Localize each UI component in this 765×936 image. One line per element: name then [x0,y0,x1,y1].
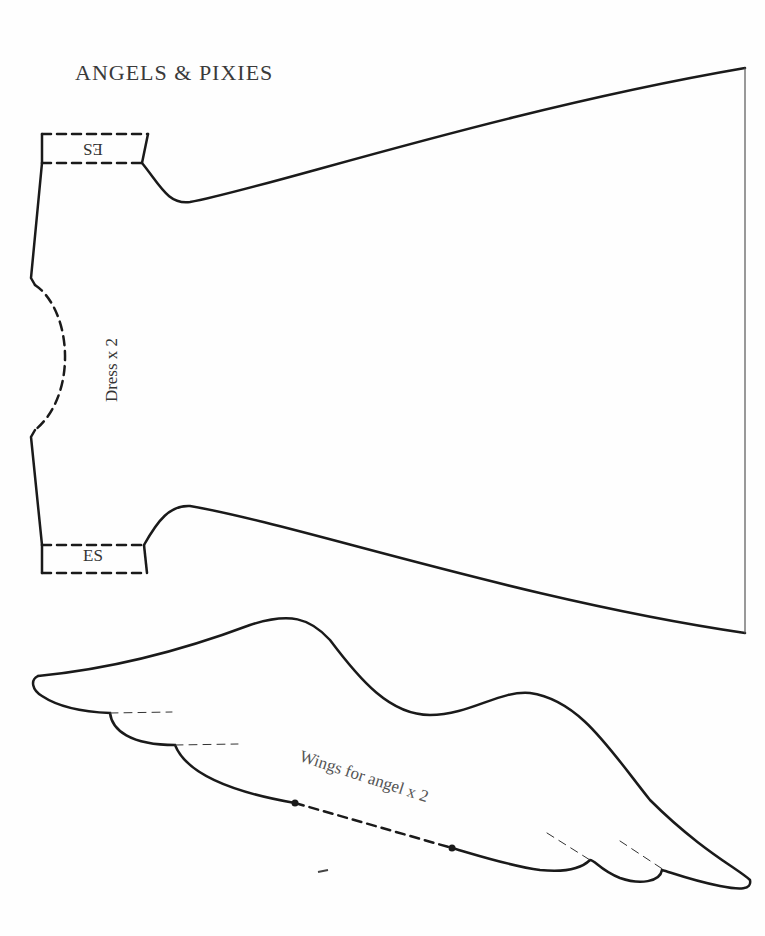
dress-piece [31,68,745,633]
es-marker-bottom: ES [83,546,103,566]
pattern-drawing [0,0,765,936]
es-marker-top: ES [83,139,103,159]
pattern-page: ANGELS & PIXIES [0,0,765,936]
seam-marker-dot [449,845,456,852]
wings-piece [33,618,750,888]
seam-marker-dot [292,800,299,807]
speck-mark [318,870,328,872]
dress-label: Dress x 2 [102,338,122,402]
